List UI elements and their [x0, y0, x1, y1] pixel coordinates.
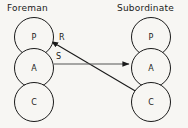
node-subordinate-c-label: C — [132, 98, 170, 107]
node-subordinate-a-label: A — [132, 64, 170, 73]
node-foreman-c[interactable]: C — [14, 82, 54, 122]
node-subordinate-c[interactable]: C — [131, 82, 171, 122]
diagram-canvas: Foreman Subordinate R S P A C P A C — [0, 0, 188, 128]
node-foreman-c-label: C — [15, 98, 53, 107]
edge-r-line — [52, 42, 138, 93]
node-subordinate-p-label: P — [132, 33, 170, 42]
node-foreman-a-label: A — [15, 64, 53, 73]
edge-label-s: S — [56, 52, 61, 61]
node-foreman-p-label: P — [15, 33, 53, 42]
edge-label-r: R — [59, 33, 65, 42]
